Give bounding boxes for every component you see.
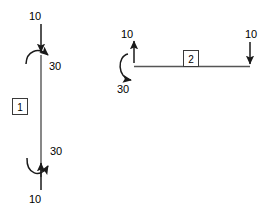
member-1-top-moment-label: 30: [49, 61, 61, 72]
member-1-bottom-moment-label: 30: [50, 146, 62, 157]
member-2-right-force-label: 10: [245, 29, 257, 40]
diagram-canvas: 10 30 1 30 10 10 30 2 10: [0, 0, 276, 214]
diagram-vector-layer: [0, 0, 276, 214]
member-1-top-moment-arc: [26, 51, 48, 64]
member-1-bottom-force-label: 10: [29, 194, 41, 205]
member-1-tag: 1: [12, 98, 28, 115]
member-2-left-moment-label: 30: [117, 84, 129, 95]
member-1-group: [26, 24, 48, 190]
member-2-tag: 2: [183, 50, 199, 67]
member-2-left-force-label: 10: [121, 29, 133, 40]
member-1-bottom-moment-arc: [27, 158, 48, 173]
member-2-left-moment-arc: [120, 54, 131, 80]
member-1-top-force-label: 10: [29, 11, 41, 22]
